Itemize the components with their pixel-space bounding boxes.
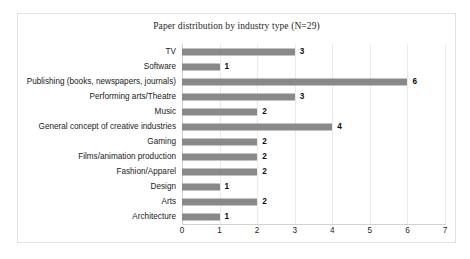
x-tick-label: 6: [405, 227, 410, 235]
bar-row: Software1: [182, 59, 470, 74]
category-label: Design: [151, 182, 177, 190]
bar[interactable]: [182, 168, 257, 175]
x-tick-label: 4: [330, 227, 335, 235]
bar-value-label: 1: [225, 62, 230, 70]
category-label: Publishing (books, newspapers, journals): [27, 77, 176, 85]
x-axis-line: [182, 224, 446, 225]
x-tick-label: 0: [180, 227, 185, 235]
bar[interactable]: [182, 93, 295, 100]
x-axis-tick-labels: 01234567: [182, 227, 445, 241]
bar-row: Arts2: [182, 194, 470, 209]
bar[interactable]: [182, 123, 332, 130]
bar-value-label: 2: [262, 137, 267, 145]
bar[interactable]: [182, 108, 257, 115]
category-label: Software: [144, 62, 176, 70]
category-label: Architecture: [132, 212, 176, 220]
bar-value-label: 2: [262, 167, 267, 175]
bar[interactable]: [182, 153, 257, 160]
bar[interactable]: [182, 183, 220, 190]
bar[interactable]: [182, 138, 257, 145]
chart-container: Paper distribution by industry type (N=2…: [17, 13, 456, 243]
bar-value-label: 2: [262, 197, 267, 205]
bar-value-label: 3: [300, 47, 305, 55]
bar[interactable]: [182, 78, 407, 85]
bar[interactable]: [182, 48, 295, 55]
category-label: Music: [155, 107, 176, 115]
bar-value-label: 6: [412, 77, 417, 85]
bar-value-label: 2: [262, 107, 267, 115]
bar[interactable]: [182, 213, 220, 220]
category-label: Gaming: [147, 137, 176, 145]
bar-row: Architecture1: [182, 209, 470, 224]
x-tick-label: 3: [292, 227, 297, 235]
category-label: Arts: [161, 197, 176, 205]
category-label: Films/animation production: [78, 152, 176, 160]
bar-value-label: 2: [262, 152, 267, 160]
bar-row: Fashion/Apparel2: [182, 164, 470, 179]
bar-value-label: 4: [337, 122, 342, 130]
bar-row: TV3: [182, 44, 470, 59]
x-tick-label: 2: [255, 227, 260, 235]
bar[interactable]: [182, 63, 220, 70]
bar-row: Performing arts/Theatre3: [182, 89, 470, 104]
bar-value-label: 1: [225, 212, 230, 220]
category-label: TV: [166, 47, 176, 55]
category-label: General concept of creative industries: [39, 122, 176, 130]
plot-area: TV3Software1Publishing (books, newspaper…: [182, 44, 445, 224]
x-tick-label: 1: [217, 227, 222, 235]
bar-row: Music2: [182, 104, 470, 119]
category-label: Fashion/Apparel: [116, 167, 176, 175]
bar-row: Films/animation production2: [182, 149, 470, 164]
x-tick-label: 5: [368, 227, 373, 235]
chart-title: Paper distribution by industry type (N=2…: [18, 21, 455, 31]
bar-row: Design1: [182, 179, 470, 194]
bar-rows: TV3Software1Publishing (books, newspaper…: [182, 44, 445, 224]
bar-row: Publishing (books, newspapers, journals)…: [182, 74, 470, 89]
bar-row: General concept of creative industries4: [182, 119, 470, 134]
category-label: Performing arts/Theatre: [90, 92, 176, 100]
bar-value-label: 3: [300, 92, 305, 100]
bar[interactable]: [182, 198, 257, 205]
x-tick-label: 7: [443, 227, 448, 235]
bar-value-label: 1: [225, 182, 230, 190]
bar-row: Gaming2: [182, 134, 470, 149]
